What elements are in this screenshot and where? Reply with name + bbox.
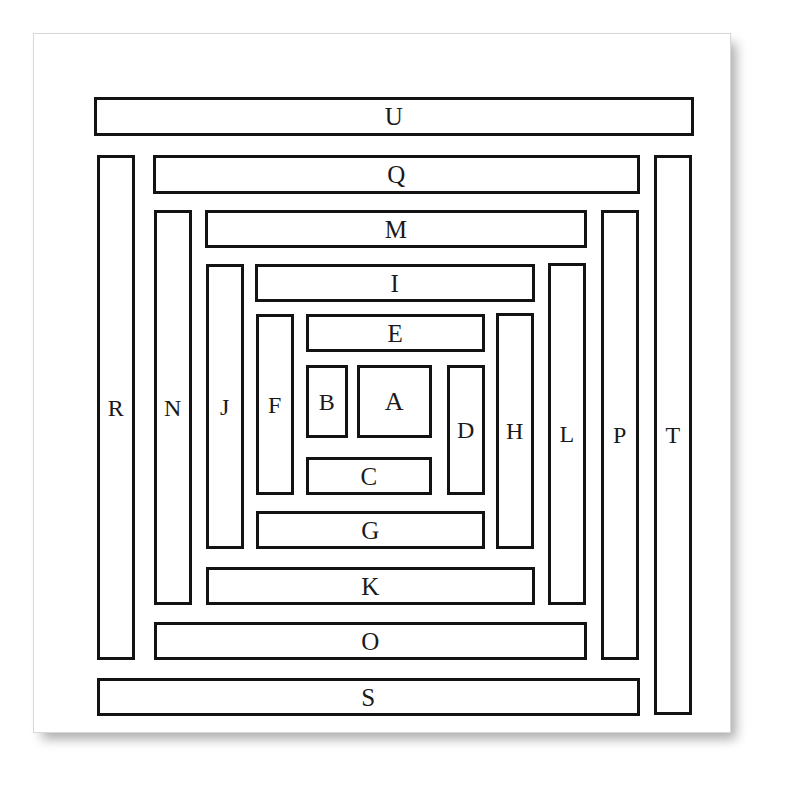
rect-label-b: B	[319, 390, 336, 414]
rect-l: L	[548, 263, 586, 605]
rect-g: G	[256, 511, 485, 549]
rect-a: A	[357, 365, 432, 438]
rect-label-c: C	[360, 464, 377, 489]
rect-e: E	[306, 314, 485, 352]
rect-o: O	[154, 622, 587, 660]
rect-d: D	[447, 365, 485, 495]
rect-p: P	[601, 210, 639, 660]
rect-k: K	[206, 567, 535, 605]
rect-i: I	[255, 264, 535, 302]
rect-label-m: M	[385, 217, 408, 242]
rect-label-i: I	[391, 271, 400, 296]
figure-canvas: ABCDEFGHIJKLMNOPQRSTU	[0, 0, 791, 807]
rect-label-r: R	[108, 396, 125, 420]
rect-label-e: E	[388, 321, 404, 346]
rect-j: J	[206, 264, 244, 549]
rect-label-n: N	[164, 396, 182, 420]
rect-label-h: H	[506, 419, 524, 443]
rect-label-k: K	[361, 574, 380, 599]
rect-m: M	[205, 210, 587, 248]
rect-s: S	[97, 678, 640, 716]
rect-label-s: S	[361, 685, 375, 710]
rect-label-p: P	[613, 423, 627, 447]
rect-r: R	[97, 155, 135, 660]
rect-f: F	[256, 314, 294, 495]
rect-label-f: F	[268, 393, 282, 417]
rect-u: U	[94, 97, 694, 136]
rect-h: H	[496, 313, 534, 549]
rectangle-dissection-diagram: ABCDEFGHIJKLMNOPQRSTU	[0, 0, 791, 807]
rect-label-g: G	[361, 518, 380, 543]
rect-c: C	[306, 457, 432, 495]
rect-label-u: U	[385, 104, 404, 129]
rect-label-l: L	[559, 422, 574, 446]
rect-label-t: T	[665, 423, 680, 447]
rect-n: N	[154, 210, 192, 605]
rect-b: B	[306, 365, 348, 438]
rect-t: T	[654, 155, 692, 715]
rect-label-a: A	[385, 389, 404, 415]
rect-q: Q	[153, 155, 640, 194]
rect-label-o: O	[361, 629, 380, 654]
rect-label-j: J	[220, 395, 230, 419]
rect-label-d: D	[457, 418, 475, 442]
rect-label-q: Q	[387, 162, 406, 187]
